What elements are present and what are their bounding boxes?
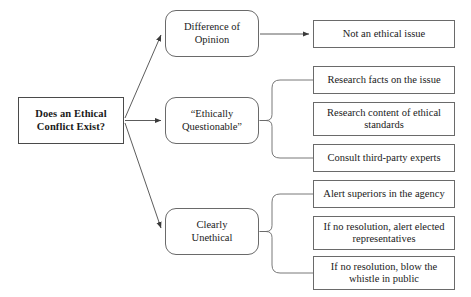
node-difference-of-opinion[interactable]: Difference of Opinion <box>165 10 259 57</box>
node-blow-whistle[interactable]: If no resolution, blow the whistle in pu… <box>313 256 455 290</box>
node-alert-superiors[interactable]: Alert superiors in the agency <box>313 180 455 208</box>
node-not-an-ethical-issue-label: Not an ethical issue <box>343 28 426 40</box>
brace-clearly-unethical <box>260 194 313 273</box>
node-consult-experts-label: Consult third-party experts <box>327 152 440 164</box>
node-root-decision-label: Does an Ethical Conflict Exist? <box>35 108 107 133</box>
node-ethically-questionable-label: “Ethically Questionable” <box>182 108 242 133</box>
node-ethically-questionable[interactable]: “Ethically Questionable” <box>165 97 259 144</box>
flowchart-canvas: Does an Ethical Conflict Exist? Differen… <box>0 0 471 297</box>
node-alert-elected-representatives[interactable]: If no resolution, alert elected represen… <box>313 216 455 250</box>
node-research-standards-label: Research content of ethical standards <box>327 107 441 132</box>
brace-ethically-questionable <box>260 80 313 158</box>
edge-root-to-difference-of-opinion <box>125 35 161 118</box>
node-clearly-unethical-label: Clearly Unethical <box>192 219 233 244</box>
node-consult-experts[interactable]: Consult third-party experts <box>313 144 455 172</box>
node-not-an-ethical-issue[interactable]: Not an ethical issue <box>313 20 455 48</box>
node-blow-whistle-label: If no resolution, blow the whistle in pu… <box>331 261 437 286</box>
node-alert-superiors-label: Alert superiors in the agency <box>323 188 444 200</box>
node-root-decision[interactable]: Does an Ethical Conflict Exist? <box>18 97 124 144</box>
node-difference-of-opinion-label: Difference of Opinion <box>184 21 240 46</box>
edge-root-to-clearly-unethical <box>125 123 161 228</box>
node-clearly-unethical[interactable]: Clearly Unethical <box>165 208 259 255</box>
node-alert-elected-representatives-label: If no resolution, alert elected represen… <box>324 221 445 246</box>
node-research-facts-label: Research facts on the issue <box>327 74 440 86</box>
node-research-facts[interactable]: Research facts on the issue <box>313 66 455 94</box>
node-research-standards[interactable]: Research content of ethical standards <box>313 102 455 136</box>
